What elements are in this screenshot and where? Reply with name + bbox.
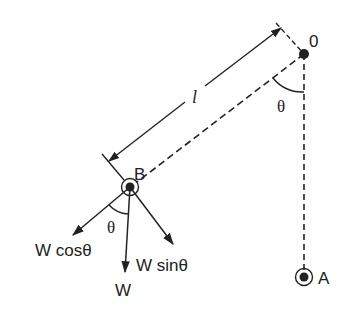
- pivot-point: [299, 49, 309, 59]
- force-arrow-w-cos: [73, 187, 130, 235]
- dimension-line-upper: [205, 28, 281, 86]
- rest-label: A: [318, 269, 330, 288]
- dimension-tick-top: [276, 23, 304, 54]
- pendulum-diagram: l θ 0 B θ W cosθ W sinθ W A: [0, 0, 357, 317]
- force-arrow-w-sin: [130, 187, 173, 244]
- force-label-w: W: [115, 281, 131, 300]
- string-dashed-line: [137, 54, 304, 182]
- angle-arc-bob: [109, 205, 128, 214]
- force-label-w-sin: W sinθ: [136, 256, 188, 275]
- dimension-line-lower: [109, 102, 185, 161]
- angle-label-bob: θ: [107, 218, 115, 237]
- angle-label-pivot: θ: [277, 97, 285, 116]
- force-arrow-w: [125, 187, 130, 272]
- force-label-w-cos: W cosθ: [35, 241, 92, 260]
- bob-label: B: [134, 165, 145, 184]
- pivot-label: 0: [309, 32, 318, 51]
- rest-point: [300, 273, 309, 282]
- angle-arc-pivot: [273, 78, 304, 92]
- length-label: l: [192, 87, 197, 107]
